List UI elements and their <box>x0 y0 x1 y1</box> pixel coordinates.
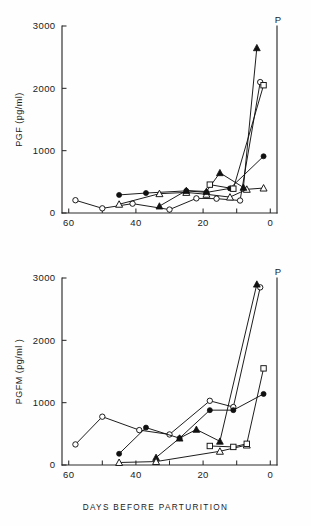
marker-open-square <box>244 441 249 446</box>
x-axis-title: DAYS BEFORE PARTURITION <box>0 503 311 512</box>
series-animal-5 <box>207 366 266 450</box>
y-tick-label: 1000 <box>33 145 56 156</box>
marker-filled-circle <box>261 154 266 159</box>
marker-filled-circle <box>261 391 266 396</box>
marker-filled-circle <box>231 408 236 413</box>
marker-filled-circle <box>207 408 212 413</box>
x-tick-label: 40 <box>130 469 141 480</box>
x-tick-label: 0 <box>267 469 273 480</box>
marker-open-circle <box>130 201 135 206</box>
marker-open-circle <box>207 398 212 403</box>
y-tick-label: 0 <box>50 459 56 470</box>
series-polyline <box>119 445 247 462</box>
y-tick-label: 2000 <box>33 335 56 346</box>
series-polyline <box>75 287 260 444</box>
marker-filled-circle <box>117 192 122 197</box>
marker-open-circle <box>73 198 78 203</box>
marker-open-square <box>231 444 236 449</box>
marker-open-circle <box>237 198 242 203</box>
y-axis-title: PGFM (pg/ml ) <box>14 339 24 405</box>
y-tick-label: 2000 <box>33 83 56 94</box>
marker-open-square <box>207 182 212 187</box>
chart-panel-pgf: 30002000100006040200PGF (pg/ml)P <box>0 0 311 252</box>
marker-open-square <box>261 83 266 88</box>
marker-open-square <box>261 366 266 371</box>
marker-filled-triangle <box>253 281 260 287</box>
parturition-label: P <box>275 14 281 25</box>
marker-open-circle <box>100 414 105 419</box>
marker-open-circle <box>194 196 199 201</box>
y-tick-label: 0 <box>50 207 56 218</box>
x-tick-label: 60 <box>63 217 74 228</box>
y-tick-label: 1000 <box>33 397 56 408</box>
marker-filled-triangle <box>216 169 223 175</box>
x-tick-label: 0 <box>267 217 273 228</box>
y-tick-label: 3000 <box>33 20 56 31</box>
x-tick-label: 40 <box>130 217 141 228</box>
series-animal-4 <box>116 442 251 466</box>
series-animal-1 <box>73 285 263 447</box>
series-polyline <box>210 368 264 447</box>
parturition-label: P <box>275 266 281 277</box>
y-axis-title: PGF (pg/ml) <box>14 92 24 147</box>
marker-open-circle <box>100 206 105 211</box>
chart-panel-pgfm: 30002000100006040200PGFM (pg/ml )P <box>0 256 311 504</box>
pgfm-plot: 30002000100006040200PGFM (pg/ml )P <box>0 256 311 504</box>
marker-filled-circle <box>117 451 122 456</box>
marker-open-circle <box>167 207 172 212</box>
marker-filled-circle <box>143 191 148 196</box>
x-tick-label: 60 <box>63 469 74 480</box>
pgf-plot: 30002000100006040200PGF (pg/ml)P <box>0 0 311 252</box>
marker-filled-triangle <box>253 44 260 50</box>
marker-open-square <box>231 186 236 191</box>
marker-filled-circle <box>143 425 148 430</box>
marker-filled-triangle <box>193 426 200 432</box>
x-tick-label: 20 <box>197 217 208 228</box>
figure-prostaglandin-parturition: 30002000100006040200PGF (pg/ml)P 3000200… <box>0 0 311 526</box>
marker-filled-triangle <box>156 203 163 209</box>
marker-open-square <box>207 443 212 448</box>
y-tick-label: 3000 <box>33 272 56 283</box>
marker-open-circle <box>73 442 78 447</box>
marker-filled-triangle <box>216 438 223 444</box>
x-tick-label: 20 <box>197 469 208 480</box>
marker-open-circle <box>214 196 219 201</box>
